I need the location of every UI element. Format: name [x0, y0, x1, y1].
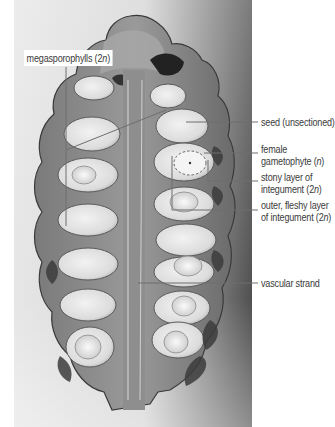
label-female-gametophyte: female gametophyte (n) [261, 143, 324, 167]
cone-section-figure: megasporophylls (2n) seed (unsectioned) … [0, 0, 335, 427]
label-megasporophylls: megasporophylls (2n) [24, 50, 113, 66]
label-stony-layer: stony layer of integument (2n) [261, 171, 322, 195]
label-vascular-strand: vascular strand [261, 277, 320, 289]
label-seed-unsectioned: seed (unsectioned) [261, 116, 335, 128]
label-fleshy-layer: outer, fleshy layer of integument (2n) [261, 199, 331, 223]
